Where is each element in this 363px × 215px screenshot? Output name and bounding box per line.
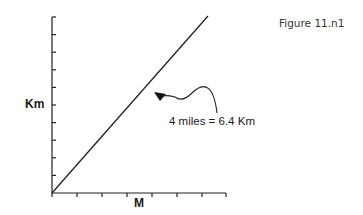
chart-canvas	[0, 0, 363, 215]
conversion-line	[52, 16, 208, 193]
x-axis-label: M	[134, 196, 144, 210]
y-axis-label: Km	[25, 97, 44, 111]
conversion-annotation: 4 miles = 6.4 Km	[169, 115, 255, 127]
annotation-arrow-icon	[154, 87, 217, 113]
figure-caption: Figure 11.n1	[279, 17, 344, 29]
y-axis	[52, 17, 56, 193]
